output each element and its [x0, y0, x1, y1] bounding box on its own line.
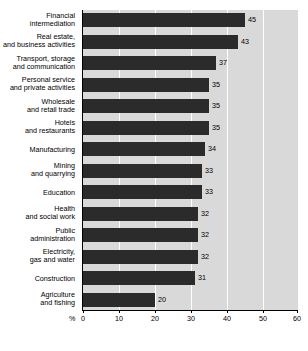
bar — [83, 78, 209, 92]
x-tick-label: 10 — [109, 314, 129, 323]
category-label: Electricity, gas and water — [30, 248, 75, 265]
category-label: Health and social work — [25, 205, 75, 222]
bar-value-label: 32 — [201, 250, 209, 264]
x-tick-label: 20 — [145, 314, 165, 323]
category-label: Construction — [35, 275, 75, 283]
bar — [83, 121, 209, 135]
x-tick — [83, 310, 84, 313]
x-tick — [155, 310, 156, 313]
bar — [83, 35, 238, 49]
category-label: Transport, storage and communication — [13, 55, 75, 72]
x-tick — [297, 310, 298, 313]
bar-chart: Financial intermediation Real estate, an… — [0, 0, 308, 351]
category-label: Agriculture and fishing — [40, 291, 75, 308]
x-tick-label: 60 — [287, 314, 307, 323]
x-axis-line — [82, 310, 298, 311]
bar-value-label: 43 — [241, 35, 249, 49]
gridline-60 — [298, 10, 299, 310]
bar — [83, 142, 205, 156]
bar — [83, 228, 198, 242]
bar-value-label: 32 — [201, 207, 209, 221]
gridline-40 — [227, 10, 228, 310]
category-label: Personal service and private activities — [10, 76, 75, 93]
gridline-50 — [263, 10, 264, 310]
x-tick — [119, 310, 120, 313]
bar — [83, 13, 245, 27]
bar-value-label: 32 — [201, 228, 209, 242]
category-label: Education — [43, 189, 75, 197]
category-label: Mining and quarrying — [31, 162, 75, 179]
category-label: Hotels and restaurants — [25, 119, 75, 136]
bar-value-label: 35 — [212, 99, 220, 113]
bar-value-label: 31 — [198, 271, 206, 285]
bar-value-label: 34 — [208, 142, 216, 156]
bar-value-label: 37 — [219, 56, 227, 70]
category-label: Real estate, and business activities — [3, 33, 75, 50]
x-tick — [227, 310, 228, 313]
bar-value-label: 35 — [212, 121, 220, 135]
plot-area: 45 43 37 35 35 35 34 33 33 32 32 32 31 2… — [82, 10, 299, 310]
x-tick — [263, 310, 264, 313]
gridline-20 — [155, 10, 156, 310]
bar — [83, 207, 198, 221]
bar — [83, 293, 155, 307]
bar — [83, 250, 198, 264]
x-tick-label: 0 — [73, 314, 93, 323]
x-tick-label: 40 — [217, 314, 237, 323]
bar — [83, 271, 195, 285]
gridline-10 — [119, 10, 120, 310]
category-label: Wholesale and retail trade — [27, 98, 75, 115]
gridline-30 — [191, 10, 192, 310]
bar — [83, 185, 202, 199]
x-tick-label: 30 — [181, 314, 201, 323]
bar-value-label: 45 — [248, 13, 256, 27]
bar — [83, 56, 216, 70]
bar-value-label: 33 — [205, 185, 213, 199]
category-labels: Financial intermediation Real estate, an… — [0, 10, 78, 310]
bar-value-label: 20 — [158, 293, 166, 307]
bar — [83, 99, 209, 113]
x-tick-label: 50 — [253, 314, 273, 323]
bar — [83, 164, 202, 178]
bar-value-label: 35 — [212, 78, 220, 92]
bar-value-label: 33 — [205, 164, 213, 178]
category-label: Public administration — [30, 227, 75, 244]
x-tick — [191, 310, 192, 313]
x-axis-unit-label: % — [69, 314, 75, 323]
category-label: Financial intermediation — [30, 12, 75, 29]
category-label: Manufacturing — [29, 146, 75, 154]
